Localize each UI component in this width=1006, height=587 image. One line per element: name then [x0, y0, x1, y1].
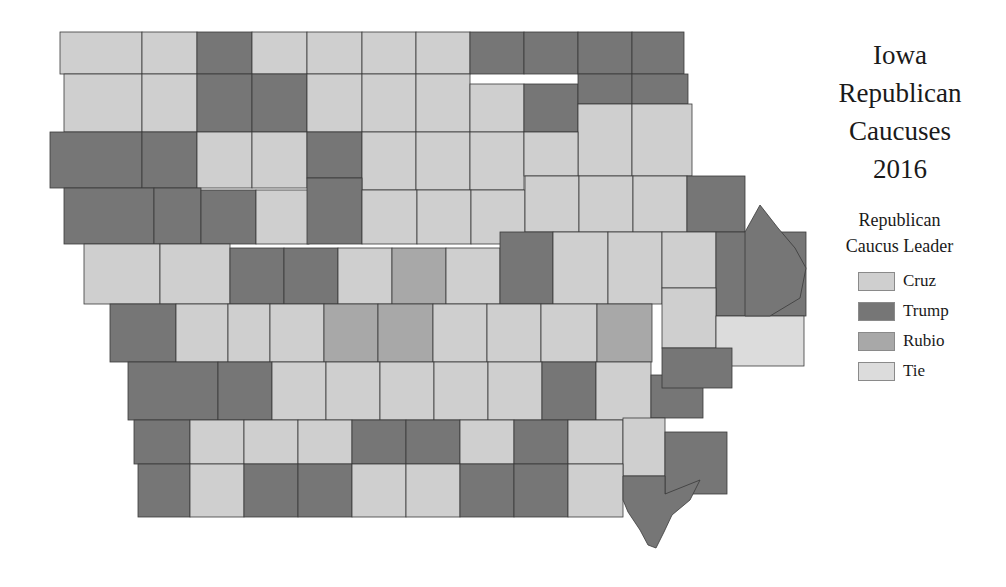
legend-label-tie: Tie — [903, 361, 925, 381]
county-cruz — [60, 32, 142, 74]
county-trump — [307, 178, 362, 244]
county-trump — [154, 188, 201, 244]
county-cruz — [416, 132, 470, 190]
county-cruz — [190, 420, 244, 464]
county-trump — [201, 190, 256, 244]
county-cruz — [623, 418, 665, 476]
county-trump — [514, 420, 568, 464]
title-line-2: Republican — [800, 74, 1000, 112]
county-cruz — [270, 304, 324, 362]
county-cruz — [568, 464, 623, 517]
county-cruz — [541, 304, 597, 362]
county-cruz — [632, 104, 692, 176]
county-cruz — [487, 304, 541, 362]
county-rubio — [324, 304, 378, 362]
legend-item-trump: Trump — [858, 296, 1002, 326]
county-trump — [218, 362, 272, 420]
county-trump — [687, 176, 745, 232]
county-trump — [197, 32, 252, 74]
county-trump — [252, 74, 307, 132]
county-cruz — [579, 176, 633, 232]
map-title: Iowa Republican Caucuses 2016 — [800, 36, 1000, 188]
county-cruz — [434, 362, 488, 420]
county-trump — [460, 464, 514, 517]
county-cruz — [160, 244, 230, 304]
county-trump — [50, 132, 142, 188]
county-cruz — [307, 32, 362, 74]
county-trump — [542, 362, 596, 420]
county-cruz — [524, 132, 578, 176]
swatch-trump — [858, 302, 895, 321]
county-trump — [284, 248, 338, 304]
county-trump — [142, 132, 197, 188]
county-cruz — [417, 190, 471, 244]
county-trump — [632, 74, 688, 104]
county-cruz — [633, 176, 687, 232]
county-trump — [514, 464, 568, 517]
county-cruz — [416, 32, 470, 74]
legend-item-cruz: Cruz — [858, 266, 1002, 296]
county-cruz — [362, 74, 416, 132]
county-cruz — [142, 32, 197, 74]
legend-label-trump: Trump — [903, 301, 949, 321]
legend-title: Republican Caucus Leader — [812, 207, 987, 259]
county-cruz — [338, 248, 392, 304]
title-line-4: 2016 — [800, 150, 1000, 188]
county-cruz — [460, 420, 514, 464]
county-trump — [578, 32, 632, 74]
county-cruz — [578, 104, 632, 176]
county-cruz — [362, 132, 416, 190]
legend-title-line-2: Caucus Leader — [812, 233, 987, 259]
swatch-rubio — [858, 332, 895, 351]
county-trump — [578, 74, 632, 104]
county-rubio — [392, 248, 446, 304]
county-cruz — [470, 132, 524, 190]
county-cruz — [608, 232, 662, 304]
county-cruz — [244, 420, 298, 464]
title-line-3: Caucuses — [800, 112, 1000, 150]
county-cruz — [433, 304, 487, 362]
county-trump — [524, 32, 578, 74]
county-cruz — [470, 84, 524, 132]
county-cruz — [272, 362, 326, 420]
county-cruz — [176, 304, 228, 362]
county-trump — [64, 188, 154, 244]
county-cruz — [252, 32, 307, 74]
county-trump — [128, 362, 218, 420]
county-cruz — [307, 74, 362, 132]
county-cruz — [252, 132, 307, 188]
county-cruz — [596, 362, 651, 420]
county-trump — [406, 420, 460, 464]
county-cruz — [525, 176, 579, 232]
county-trump — [500, 232, 553, 304]
county-trump — [197, 74, 252, 132]
county-cruz — [362, 32, 416, 74]
county-cruz — [362, 190, 417, 244]
county-cruz — [64, 74, 142, 132]
county-cruz — [190, 464, 244, 517]
county-cruz — [553, 232, 608, 304]
county-trump — [470, 32, 524, 74]
county-cruz — [488, 362, 542, 420]
legend: Republican Caucus Leader Cruz Trump Rubi… — [812, 207, 1002, 386]
county-cruz — [380, 362, 434, 420]
county-cruz — [662, 232, 716, 288]
title-line-1: Iowa — [800, 36, 1000, 74]
county-cruz — [256, 190, 309, 244]
county-rubio — [378, 304, 433, 362]
legend-label-rubio: Rubio — [903, 331, 945, 351]
county-cruz — [446, 248, 500, 304]
county-trump — [298, 464, 352, 517]
county-cruz — [568, 420, 623, 464]
swatch-cruz — [858, 272, 895, 291]
legend-item-tie: Tie — [858, 356, 1002, 386]
legend-label-cruz: Cruz — [903, 271, 936, 291]
county-trump — [307, 132, 362, 178]
county-cruz — [662, 288, 716, 348]
swatch-tie — [858, 362, 895, 381]
county-layer — [50, 32, 806, 517]
county-cruz — [326, 362, 380, 420]
county-cruz — [84, 244, 160, 304]
legend-title-line-1: Republican — [812, 207, 987, 233]
county-trump — [138, 464, 190, 517]
